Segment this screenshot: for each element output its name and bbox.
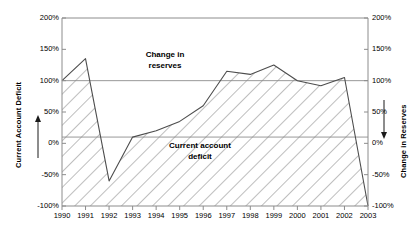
bottom-axis-ticks <box>62 206 368 210</box>
right-tick-label-6: 200% <box>372 14 406 22</box>
current-account-deficit-area-chart <box>0 0 418 238</box>
left-tick-label-1: 150% <box>29 45 59 53</box>
x-tick-label-2003: 2003 <box>353 212 383 220</box>
annotation-deficit-line2: deficit <box>188 152 212 161</box>
left-tick-label-4: 0% <box>29 139 59 147</box>
annotation-reserves-line2: reserves <box>149 61 182 70</box>
left-tick-label-3: 50% <box>29 108 59 116</box>
right-tick-label-5: 150% <box>372 45 406 53</box>
left-tick-label-0: 200% <box>29 14 59 22</box>
right-tick-label-0: -100% <box>372 202 406 210</box>
right-tick-label-1: -50% <box>372 171 406 179</box>
annotation-change-in-reserves: Change in reserves <box>115 49 215 71</box>
annotation-deficit-line1: Current account <box>169 141 231 150</box>
right-tick-label-3: 50% <box>372 108 406 116</box>
right-tick-label-2: 0% <box>372 139 406 147</box>
down-arrow-icon <box>381 100 387 139</box>
left-tick-label-2: 100% <box>29 77 59 85</box>
chart-canvas: Current Account Deficit Change in Reserv… <box>0 0 418 238</box>
left-tick-label-6: -100% <box>29 202 59 210</box>
annotation-reserves-line1: Change in <box>146 50 185 59</box>
left-tick-label-5: -50% <box>29 171 59 179</box>
up-arrow-icon <box>35 115 41 158</box>
annotation-current-account-deficit: Current account deficit <box>145 140 255 162</box>
right-axis-ticks <box>364 18 368 206</box>
left-axis-title: Current Account Deficit <box>14 82 23 168</box>
right-tick-label-4: 100% <box>372 77 406 85</box>
